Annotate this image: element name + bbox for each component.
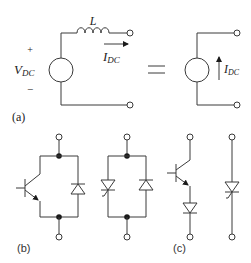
panel-b-igbt-diode	[16, 134, 85, 240]
terminal-bottom-c2	[229, 234, 235, 240]
wire-eq-top	[197, 33, 234, 58]
diode-icon	[139, 180, 153, 190]
equivalent-current-label: IDC	[223, 62, 240, 77]
terminal-bottom-eq	[234, 102, 240, 108]
wire-bottom	[61, 82, 127, 105]
terminal-bottom-c1	[187, 234, 193, 240]
plus-sign: +	[27, 44, 33, 55]
circuit-diagram-svg: L + − VDC IDC (a) IDC	[0, 0, 251, 263]
circuit-figure: L + − VDC IDC (a) IDC	[0, 0, 251, 263]
voltage-label-sub: DC	[21, 68, 35, 78]
panel-b-thyristor-diode	[101, 134, 153, 240]
diode-icon	[71, 184, 85, 194]
caption-c: (c)	[173, 242, 186, 254]
voltage-label: VDC	[14, 62, 35, 78]
wire-eq-bottom	[197, 82, 234, 105]
terminal-bottom-b2	[124, 234, 130, 240]
panel-c-igbt-series-diode	[167, 134, 197, 240]
caption-a: (a)	[12, 110, 25, 124]
voltage-source-icon	[49, 58, 73, 82]
minus-sign: −	[27, 83, 33, 95]
equivalent-current-label-sub: DC	[227, 68, 240, 77]
terminal-top-b1	[56, 134, 62, 140]
terminal-bottom-a	[127, 102, 133, 108]
inductor-label: L	[89, 14, 97, 28]
panel-c-thyristor	[225, 134, 239, 240]
current-label: IDC	[102, 49, 121, 65]
terminal-bottom-b1	[56, 234, 62, 240]
diode-icon	[183, 203, 197, 213]
current-label-sub: DC	[106, 55, 120, 65]
current-source-icon	[185, 58, 209, 82]
terminal-top-b2	[124, 134, 130, 140]
caption-b: (b)	[17, 242, 30, 254]
panel-a-dc-source-with-inductor: L + − VDC IDC (a) IDC	[12, 14, 240, 124]
terminal-top-a	[127, 30, 133, 36]
inductor-icon	[77, 28, 109, 33]
terminal-top-c2	[229, 134, 235, 140]
wire-top-left	[61, 33, 77, 58]
terminal-top-eq	[234, 30, 240, 36]
igbt-transistor-icon	[167, 164, 188, 185]
igbt-transistor-icon	[16, 179, 38, 200]
equals-sign-icon	[148, 66, 165, 73]
terminal-top-c1	[187, 134, 193, 140]
